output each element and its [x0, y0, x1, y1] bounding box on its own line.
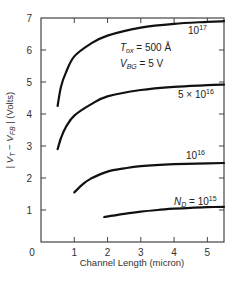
- x-tick-label: 5: [205, 247, 211, 258]
- annotation-tox: Tox = 500 Å: [120, 41, 171, 54]
- y-axis-title: | VT − VFB | (Volts): [4, 92, 16, 169]
- y-tick-label: 3: [26, 141, 32, 152]
- curve-label-5e16: 5 × 1016: [178, 88, 214, 100]
- curve-series-2: [74, 163, 224, 192]
- annotation-vbg: VBG = 5 V: [120, 58, 164, 70]
- y-tick-labels: 1234567: [26, 13, 32, 216]
- curve-series-3: [104, 207, 224, 217]
- y-tick-label: 6: [26, 45, 32, 56]
- curve-label-1e16: 1016: [186, 149, 205, 161]
- x-tick-label: 0: [29, 247, 35, 258]
- x-axis-title: Channel Length (micron): [80, 257, 185, 268]
- y-tick-label: 2: [26, 173, 32, 184]
- y-tick-label: 4: [26, 109, 32, 120]
- y-tick-label: 5: [26, 77, 32, 88]
- y-tick-label: 1: [26, 205, 32, 216]
- x-tick-label: 1: [71, 247, 77, 258]
- y-tick-label: 7: [26, 13, 32, 24]
- curve-label-1e17: 1017: [188, 24, 207, 36]
- chart: 1234567 012345 Channel Length (micron) |…: [0, 0, 236, 284]
